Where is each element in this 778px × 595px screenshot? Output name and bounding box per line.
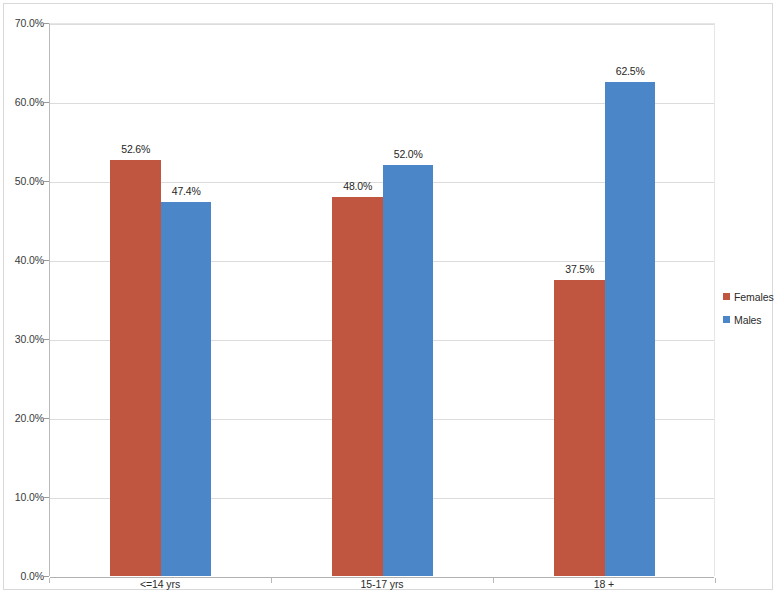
bar-value-label: 37.5% — [565, 263, 594, 275]
legend-swatch-icon — [723, 293, 730, 300]
bar-rect — [605, 82, 656, 576]
x-tick-label: 18 + — [493, 578, 715, 590]
bar-value-label: 47.4% — [172, 185, 201, 197]
y-tick-mark — [44, 576, 49, 577]
chart-legend: FemalesMales — [723, 288, 778, 334]
x-tick-label: 15-17 yrs — [271, 578, 493, 590]
bar-value-label: 52.6% — [121, 143, 150, 155]
legend-label: Males — [734, 314, 762, 326]
y-tick-label: 40.0% — [0, 254, 44, 266]
y-tick-label: 70.0% — [0, 17, 44, 29]
bar-value-label: 52.0% — [394, 148, 423, 160]
bar-chart-figure: 0.0%10.0%20.0%30.0%40.0%50.0%60.0%70.0% … — [0, 0, 778, 595]
bar-rect — [554, 280, 605, 576]
y-axis: 0.0%10.0%20.0%30.0%40.0%50.0%60.0%70.0% — [0, 23, 44, 576]
legend-item-males[interactable]: Males — [723, 311, 778, 328]
x-tick-mark — [493, 578, 494, 583]
bar-value-label: 62.5% — [616, 65, 645, 77]
y-tick-label: 30.0% — [0, 333, 44, 345]
x-axis: <=14 yrs15-17 yrs18 + — [49, 578, 715, 595]
legend-item-females[interactable]: Females — [723, 288, 778, 305]
x-tick-label: <=14 yrs — [49, 578, 271, 590]
bar-value-label: 48.0% — [343, 180, 372, 192]
x-tick-mark — [715, 578, 716, 583]
legend-swatch-icon — [723, 316, 730, 323]
y-tick-label: 50.0% — [0, 175, 44, 187]
y-tick-label: 20.0% — [0, 412, 44, 424]
bar-rect — [332, 197, 383, 576]
plot-area: 52.6%47.4%48.0%52.0%37.5%62.5% — [49, 23, 715, 576]
y-tick-label: 0.0% — [0, 570, 44, 582]
y-tick-label: 60.0% — [0, 96, 44, 108]
y-tick-label: 10.0% — [0, 491, 44, 503]
bar-rect — [383, 165, 434, 576]
x-tick-mark — [271, 578, 272, 583]
legend-label: Females — [734, 291, 774, 303]
bar-group: 37.5%62.5% — [554, 24, 655, 576]
bar-rect — [161, 202, 212, 576]
bar-group: 48.0%52.0% — [332, 24, 433, 576]
bar-group: 52.6%47.4% — [110, 24, 211, 576]
bar-rect — [110, 160, 161, 576]
x-tick-mark — [49, 578, 50, 583]
